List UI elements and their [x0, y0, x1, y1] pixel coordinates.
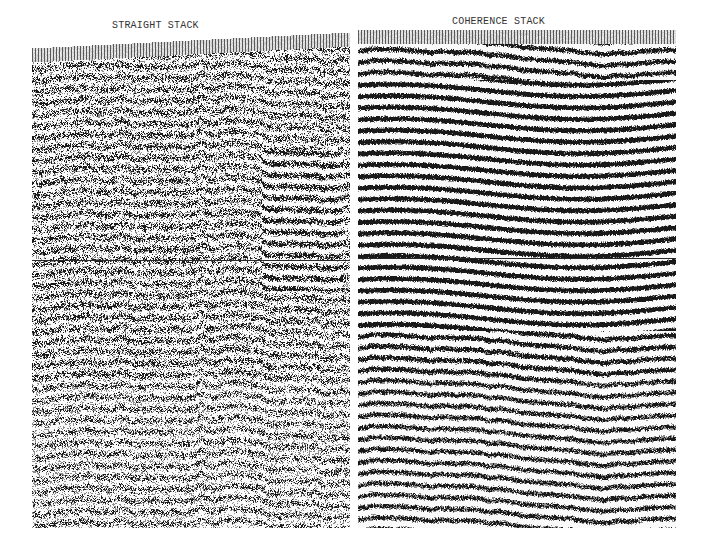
coherence-stack-section — [358, 30, 676, 528]
coherence-stack-traces — [358, 30, 676, 528]
coherence-stack-title: COHERENCE STACK — [452, 16, 545, 27]
straight-stack-title: STRAIGHT STACK — [112, 20, 199, 31]
straight-stack-section — [32, 32, 350, 528]
straight-stack-traces — [32, 32, 350, 528]
